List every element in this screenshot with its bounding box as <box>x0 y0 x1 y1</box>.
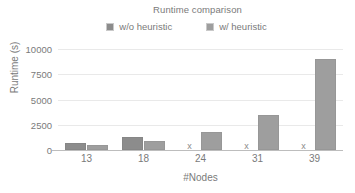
legend-swatch-icon <box>106 23 114 31</box>
x-axis-tick-label: 13 <box>58 153 115 164</box>
bar-group <box>115 49 172 150</box>
bar[interactable] <box>315 59 336 150</box>
y-axis-tick-label: 5000 <box>0 94 52 105</box>
y-axis-tick-label: 7500 <box>0 69 52 80</box>
bar[interactable] <box>144 141 165 150</box>
legend-swatch-icon <box>206 23 214 31</box>
x-axis-tick-label: 24 <box>172 153 229 164</box>
chart-legend: w/o heuristic w/ heuristic <box>0 21 355 32</box>
y-axis-ticks: 025005000750010000 <box>0 49 52 150</box>
bar[interactable] <box>122 137 143 150</box>
bar-group: x <box>229 49 286 150</box>
x-axis-ticks: 1318243139 <box>58 153 343 164</box>
bar[interactable] <box>258 115 279 150</box>
bar-groups: xxx <box>58 49 343 150</box>
y-axis-tick-label: 0 <box>0 145 52 156</box>
chart-title: Runtime comparison <box>0 4 355 15</box>
x-axis-line <box>52 150 343 151</box>
x-axis-tick-label: 31 <box>229 153 286 164</box>
bar[interactable] <box>65 143 86 150</box>
y-axis-tick-label: 2500 <box>0 119 52 130</box>
y-axis-tick-label: 10000 <box>0 44 52 55</box>
bar[interactable] <box>201 132 222 150</box>
legend-label: w/o heuristic <box>119 21 172 32</box>
bar-group: x <box>172 49 229 150</box>
x-axis-tick-label: 18 <box>115 153 172 164</box>
x-axis-tick-label: 39 <box>286 153 343 164</box>
legend-item-series-2[interactable]: w/ heuristic <box>206 21 267 32</box>
chart-container: Runtime comparison w/o heuristic w/ heur… <box>0 0 355 193</box>
x-axis-label: #Nodes <box>58 172 343 183</box>
bar-group: x <box>286 49 343 150</box>
legend-label: w/ heuristic <box>219 21 267 32</box>
plot-area: xxx <box>58 49 343 150</box>
legend-item-series-1[interactable]: w/o heuristic <box>106 21 172 32</box>
bar-group <box>58 49 115 150</box>
